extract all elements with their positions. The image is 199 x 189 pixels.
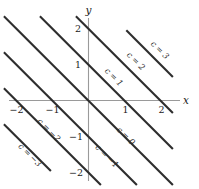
level-label-cm2: c = −2 bbox=[35, 116, 62, 143]
x-tick-label-1: 1 bbox=[122, 104, 128, 115]
y-tick-label-neg1: −1 bbox=[69, 131, 83, 142]
x-tick-label-2: 2 bbox=[158, 104, 164, 115]
x-tick-labels-group: −2 −1 1 2 bbox=[9, 104, 164, 115]
level-label-cm1: c = −1 bbox=[93, 142, 120, 169]
y-tick-label-neg2: −2 bbox=[69, 167, 83, 178]
y-axis-label: y bbox=[85, 4, 93, 16]
x-tick-label-neg1: −1 bbox=[45, 104, 59, 115]
level-label-cm3: c = −3 bbox=[16, 141, 43, 168]
level-curves-chart: −2 −1 1 2 2 1 −1 −2 x y c = 3 c = 2 c = … bbox=[0, 0, 199, 189]
level-label-c0: c = 0 bbox=[115, 125, 138, 148]
level-label-c1: c = 1 bbox=[103, 66, 126, 89]
level-curve-labels-group: c = 3 c = 2 c = 1 c = 0 c = −1 c = −2 c … bbox=[16, 39, 171, 170]
contour-plot-figure: −2 −1 1 2 2 1 −1 −2 x y c = 3 c = 2 c = … bbox=[0, 0, 199, 189]
x-tick-label-neg2: −2 bbox=[9, 104, 23, 115]
y-tick-label-2: 2 bbox=[75, 23, 81, 34]
level-line-c1 bbox=[40, 16, 173, 149]
x-axis-label: x bbox=[183, 94, 189, 106]
level-line-c2 bbox=[76, 16, 173, 113]
y-tick-label-1: 1 bbox=[75, 59, 81, 70]
